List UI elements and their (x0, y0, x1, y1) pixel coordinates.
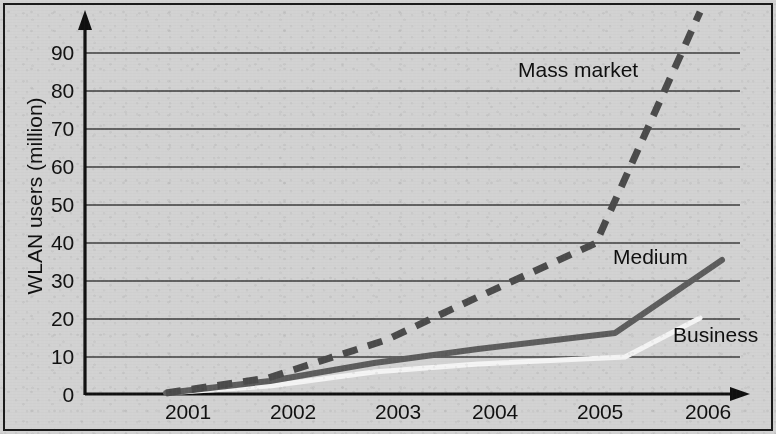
y-axis (78, 10, 92, 395)
series-label-mass-market: Mass market (518, 58, 638, 82)
x-tick-2006: 2006 (668, 400, 748, 424)
x-tick-2002: 2002 (253, 400, 333, 424)
series-medium (166, 260, 722, 393)
chart-figure: 90 80 70 60 50 40 30 20 10 0 WLAN users … (0, 0, 776, 434)
y-axis-title: WLAN users (million) (23, 16, 47, 376)
chart-canvas (0, 0, 776, 434)
x-tick-2001: 2001 (148, 400, 228, 424)
x-tick-2005: 2005 (560, 400, 640, 424)
series-label-business: Business (673, 323, 758, 347)
series-label-medium: Medium (613, 245, 688, 269)
x-tick-2003: 2003 (358, 400, 438, 424)
x-tick-2004: 2004 (455, 400, 535, 424)
y-tick-0: 0 (28, 383, 74, 407)
